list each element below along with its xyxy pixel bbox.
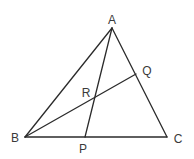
label-r: R: [82, 86, 91, 100]
label-q: Q: [142, 64, 151, 78]
triangle-diagram: A B C P Q R: [0, 0, 194, 159]
segment-bq: [25, 74, 136, 137]
label-c: C: [174, 132, 183, 146]
label-b: B: [11, 131, 19, 145]
label-p: P: [79, 142, 87, 156]
label-a: A: [108, 13, 116, 27]
